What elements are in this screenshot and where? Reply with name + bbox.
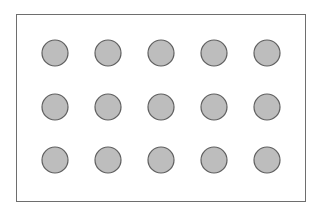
grid-dot-r2-c4	[201, 94, 227, 120]
grid-dot-r2-c1	[42, 94, 68, 120]
grid-dot-r2-c3	[148, 94, 174, 120]
grid-dot-r3-c2	[95, 147, 121, 173]
dot-grid	[0, 0, 320, 210]
grid-dot-r2-c5	[254, 94, 280, 120]
grid-dot-r1-c2	[95, 40, 121, 66]
grid-dot-r1-c4	[201, 40, 227, 66]
grid-dot-r3-c5	[254, 147, 280, 173]
grid-dot-r1-c3	[148, 40, 174, 66]
grid-dot-r1-c1	[42, 40, 68, 66]
grid-dot-r2-c2	[95, 94, 121, 120]
grid-dot-r3-c1	[42, 147, 68, 173]
grid-dot-r3-c3	[148, 147, 174, 173]
grid-dot-r1-c5	[254, 40, 280, 66]
grid-dot-r3-c4	[201, 147, 227, 173]
